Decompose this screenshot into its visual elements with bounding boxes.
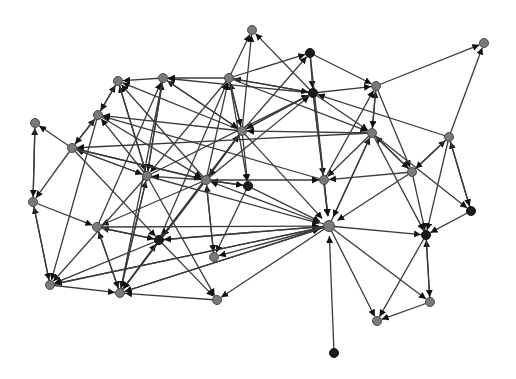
graph-node-n25 bbox=[155, 236, 164, 245]
graph-node-n29 bbox=[213, 296, 222, 305]
edge-n14-n19 bbox=[416, 137, 449, 169]
edge-n23-n16 bbox=[211, 182, 329, 226]
edge-n10-n27 bbox=[51, 115, 98, 280]
edge-n29-n28 bbox=[125, 293, 217, 300]
graph-node-n1 bbox=[248, 26, 257, 35]
graph-node-n15 bbox=[143, 172, 152, 181]
edge-n8-n12 bbox=[246, 93, 313, 129]
edge-n3-n7 bbox=[310, 53, 372, 84]
edge-n3-n23 bbox=[310, 53, 328, 216]
network-graph bbox=[0, 0, 516, 379]
edge-n11-n20 bbox=[36, 148, 72, 198]
edge-n24-n30 bbox=[426, 235, 430, 297]
graph-node-n12 bbox=[238, 127, 247, 136]
edge-n15-n28 bbox=[121, 176, 147, 288]
edge-n22-n25 bbox=[97, 227, 154, 239]
graph-node-n7 bbox=[372, 82, 381, 91]
edge-n30-n31 bbox=[382, 302, 430, 319]
edge-n19-n18 bbox=[329, 172, 412, 180]
graph-node-n16 bbox=[202, 176, 211, 185]
graph-node-n30 bbox=[426, 298, 435, 307]
edge-n22-n5 bbox=[97, 83, 161, 227]
edge-n5-n4 bbox=[123, 78, 163, 81]
edge-layer bbox=[33, 34, 482, 353]
edge-n14-n24 bbox=[427, 137, 449, 230]
graph-node-n17 bbox=[244, 182, 253, 191]
edge-n13-n11 bbox=[77, 133, 372, 148]
graph-node-n27 bbox=[46, 281, 55, 290]
edge-n4-n10 bbox=[101, 81, 118, 111]
graph-node-n2 bbox=[480, 39, 489, 48]
edge-n6-n13 bbox=[229, 78, 367, 131]
edge-n19-n23 bbox=[337, 172, 412, 221]
edge-n25-n29 bbox=[159, 240, 214, 296]
graph-node-n11 bbox=[68, 144, 77, 153]
edge-n13-n24 bbox=[372, 133, 424, 231]
edge-n32-n23 bbox=[329, 236, 334, 353]
graph-node-n3 bbox=[306, 49, 315, 58]
graph-node-n14 bbox=[445, 133, 454, 142]
edge-n7-n2 bbox=[376, 45, 479, 86]
edge-n6-n1 bbox=[229, 35, 250, 78]
edge-n23-n31 bbox=[329, 226, 375, 317]
edge-n13-n23 bbox=[333, 133, 372, 217]
edge-n6-n3 bbox=[229, 54, 305, 78]
edge-n8-n13 bbox=[313, 93, 368, 130]
edge-n23-n30 bbox=[329, 226, 426, 299]
edge-n12-n3 bbox=[242, 57, 307, 131]
edge-n6-n8 bbox=[229, 78, 308, 92]
edge-n13-n21 bbox=[372, 133, 467, 208]
graph-node-n13 bbox=[368, 129, 377, 138]
edge-n8-n7 bbox=[313, 87, 371, 93]
graph-node-n28 bbox=[116, 289, 125, 298]
edge-n20-n22 bbox=[33, 202, 92, 225]
edge-n14-n2 bbox=[449, 48, 482, 137]
graph-node-n24 bbox=[422, 231, 431, 240]
graph-node-n9 bbox=[31, 119, 40, 128]
edge-n23-n29 bbox=[221, 226, 329, 297]
graph-node-n31 bbox=[373, 317, 382, 326]
graph-node-n4 bbox=[114, 77, 123, 86]
graph-node-n5 bbox=[159, 74, 168, 83]
edge-n14-n8 bbox=[318, 95, 449, 137]
graph-node-n21 bbox=[467, 207, 476, 216]
edge-n27-n28 bbox=[50, 285, 115, 292]
edge-n16-n26 bbox=[206, 180, 213, 252]
edge-n23-n24 bbox=[329, 226, 421, 235]
graph-node-n23 bbox=[324, 221, 335, 232]
graph-node-n19 bbox=[408, 168, 417, 177]
edge-n22-n23 bbox=[97, 226, 319, 227]
graph-node-n18 bbox=[320, 176, 329, 185]
graph-node-n32 bbox=[330, 349, 339, 358]
graph-node-n20 bbox=[29, 198, 38, 207]
graph-node-n8 bbox=[309, 89, 318, 98]
graph-node-n10 bbox=[94, 111, 103, 120]
edge-n20-n27 bbox=[33, 202, 49, 280]
graph-node-n26 bbox=[210, 253, 219, 262]
edge-n24-n31 bbox=[379, 235, 426, 317]
graph-node-n6 bbox=[225, 74, 234, 83]
edge-n13-n18 bbox=[328, 133, 372, 177]
edge-n6-n15 bbox=[150, 78, 229, 172]
edge-n11-n9 bbox=[39, 126, 72, 148]
edge-n21-n24 bbox=[430, 211, 471, 233]
edge-n7-n19 bbox=[376, 86, 410, 167]
graph-node-n22 bbox=[93, 223, 102, 232]
edge-n9-n20 bbox=[33, 123, 35, 197]
